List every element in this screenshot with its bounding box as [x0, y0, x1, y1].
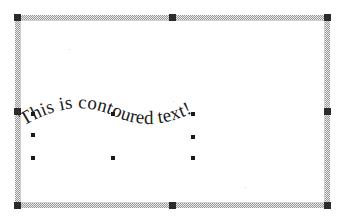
- object-handle-bottom-center[interactable]: [111, 156, 115, 160]
- frame-handle-top-right[interactable]: [324, 14, 331, 21]
- object-handle-bottom-left[interactable]: [31, 156, 35, 160]
- object-handle-top-left[interactable]: [31, 112, 35, 116]
- frame-handle-bottom-left[interactable]: [14, 202, 21, 209]
- object-handle-top-right[interactable]: [191, 112, 195, 116]
- paper-speck: [69, 49, 70, 50]
- paper-speck: [173, 101, 174, 102]
- frame-handle-middle-left[interactable]: [14, 108, 21, 115]
- frame-handle-top-center[interactable]: [169, 14, 176, 21]
- drawing-canvas[interactable]: [20, 20, 325, 203]
- object-handle-middle-right[interactable]: [191, 135, 195, 139]
- frame-handle-top-left[interactable]: [14, 14, 21, 21]
- object-handle-middle-left[interactable]: [31, 133, 35, 137]
- canvas-selection-frame[interactable]: [15, 15, 330, 208]
- object-handle-top-center[interactable]: [111, 112, 115, 116]
- wordart-editor-screen: This is contoured text!: [0, 0, 345, 223]
- frame-handle-bottom-right[interactable]: [324, 202, 331, 209]
- frame-handle-bottom-center[interactable]: [169, 202, 176, 209]
- paper-speck: [245, 187, 246, 188]
- object-handle-bottom-right[interactable]: [191, 156, 195, 160]
- frame-handle-middle-right[interactable]: [324, 108, 331, 115]
